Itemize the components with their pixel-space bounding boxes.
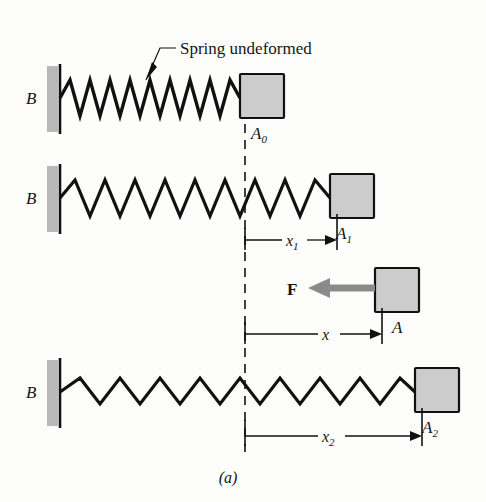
block-a2 [415,368,459,412]
row-undeformed: B A0 Spring undeformed [26,39,312,145]
block-a1 [330,174,374,218]
wall-hatching-1 [47,64,60,134]
dimension-x2: x2 [245,408,422,448]
wall-label-3: B [26,383,37,402]
figure-caption: (a) [219,469,238,487]
dimension-x1: x1 [245,214,337,252]
spring-force-figure: B A0 Spring undeformed B [0,0,486,502]
spring-undeformed [60,80,240,116]
wall-label-2: B [26,189,37,208]
annotation-label: Spring undeformed [180,39,312,58]
annotation-arrow-head [146,62,157,80]
dimension-label-x1: x1 [285,232,299,252]
block-label-a: A [391,318,403,337]
row-free-body: A F x [245,268,419,344]
wall-hatching-3 [47,358,60,428]
diagram-canvas: B A0 Spring undeformed B [0,0,486,502]
wall-hatching-2 [47,164,60,234]
annotation-leader-line [146,48,176,80]
block-a0 [240,74,284,118]
dimension-x: x [245,308,382,344]
wall-label-1: B [26,89,37,108]
block-label-a2: A2 [421,418,438,439]
row-stretched-1: B A1 x1 [26,164,374,252]
force-arrow [308,278,375,298]
dimension-label-x2: x2 [321,428,335,448]
block-a [375,268,419,312]
block-label-a0: A0 [250,124,267,145]
row-stretched-2: B A2 x2 [26,358,459,448]
spring-stretched-1 [60,180,330,216]
force-label-f: F [287,280,297,299]
spring-stretched-2 [60,378,415,404]
dimension-label-x: x [321,326,329,343]
